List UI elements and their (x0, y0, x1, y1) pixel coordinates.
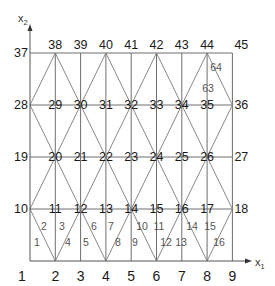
node-label: 42 (150, 38, 164, 52)
node-label: 25 (175, 150, 189, 164)
node-label: 10 (14, 202, 28, 216)
element-label: 15 (204, 220, 216, 232)
node-label: 37 (14, 46, 28, 60)
node-label: 18 (234, 202, 248, 216)
node-label: 41 (124, 38, 138, 52)
node-label: 6 (153, 268, 161, 284)
node-label: 17 (200, 202, 214, 216)
element-label: 2 (41, 220, 47, 232)
node-label: 21 (74, 150, 88, 164)
node-label: 43 (175, 38, 189, 52)
node-label: 31 (99, 98, 113, 112)
element-label: 12 (160, 236, 172, 248)
node-label: 38 (48, 38, 62, 52)
node-label: 5 (127, 268, 135, 284)
diagonal-edge (131, 209, 156, 261)
element-label: 8 (115, 236, 121, 248)
diagonal-edge (106, 209, 131, 261)
element-label: 11 (154, 220, 165, 232)
x-axis-label: x1 (255, 256, 265, 271)
node-label: 33 (150, 98, 164, 112)
y-axis-arrow-icon (28, 24, 33, 31)
node-label: 36 (234, 98, 248, 112)
y-axis-label: x2 (18, 12, 28, 27)
node-label: 12 (74, 202, 88, 216)
node-label: 30 (74, 98, 88, 112)
element-label: 14 (186, 220, 198, 232)
diagonal-edge (55, 209, 80, 261)
node-label: 32 (124, 98, 138, 112)
element-label: 13 (175, 236, 187, 248)
element-label: 4 (65, 236, 71, 248)
element-label: 3 (59, 220, 65, 232)
diagonal-edge (157, 209, 182, 261)
node-label: 35 (200, 98, 214, 112)
node-label: 19 (14, 150, 28, 164)
diagonal-edge (81, 209, 106, 261)
node-label: 7 (178, 268, 186, 284)
fem-mesh-diagram: x1 x2 1234567891011121314151617181920212… (0, 0, 275, 286)
node-label: 44 (200, 38, 214, 52)
node-label: 22 (99, 150, 113, 164)
node-label: 3 (77, 268, 85, 284)
node-label: 16 (175, 202, 189, 216)
element-label: 9 (132, 236, 138, 248)
node-label: 20 (48, 150, 62, 164)
node-label: 24 (150, 150, 164, 164)
node-label: 39 (74, 38, 88, 52)
element-label: 16 (213, 236, 225, 248)
node-label: 2 (51, 268, 59, 284)
diagonal-edge (207, 209, 232, 261)
element-label: 63 (202, 82, 214, 94)
node-label: 40 (99, 38, 113, 52)
node-label: 23 (124, 150, 138, 164)
element-label: 10 (136, 220, 148, 232)
node-label: 9 (229, 268, 237, 284)
element-label: 1 (34, 236, 40, 248)
x-axis-arrow-icon (245, 259, 252, 264)
element-label: 6 (91, 220, 97, 232)
element-label: 64 (210, 61, 222, 73)
node-label: 27 (234, 150, 248, 164)
node-label: 1 (18, 268, 26, 284)
element-label: 5 (83, 236, 89, 248)
node-label: 8 (203, 268, 211, 284)
node-label: 13 (99, 202, 113, 216)
diagonal-edge (30, 209, 55, 261)
node-label: 4 (102, 268, 110, 284)
node-label: 29 (48, 98, 62, 112)
node-label: 26 (200, 150, 214, 164)
diagonal-edge (182, 209, 207, 261)
node-label: 11 (49, 202, 62, 216)
node-label: 14 (124, 202, 138, 216)
node-label: 34 (175, 98, 189, 112)
node-label: 28 (14, 98, 28, 112)
node-label: 15 (150, 202, 164, 216)
node-label: 45 (234, 38, 248, 52)
element-label: 7 (108, 220, 114, 232)
